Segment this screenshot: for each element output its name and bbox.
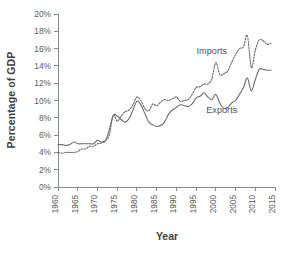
x-axis-tick-label: 2015	[268, 195, 277, 214]
y-axis-tick-label: 10%	[34, 96, 51, 106]
series-label-exports: Exports	[206, 105, 238, 115]
y-axis-tick-label: 16%	[34, 44, 51, 54]
y-axis-tick-label: 6%	[39, 130, 52, 140]
x-axis-tick-label: 1960	[51, 195, 60, 214]
y-axis-tick-label: 8%	[39, 113, 52, 123]
y-axis-tick-label: 0%	[39, 182, 52, 192]
chart-container: Percentage of GDP 0%2%4%6%8%10%12%14%16%…	[0, 0, 285, 254]
y-axis-tick-label: 4%	[39, 147, 52, 157]
x-axis-tick-label: 2010	[248, 195, 257, 214]
y-axis-tick-label: 14%	[34, 61, 51, 71]
x-axis-tick-label: 1980	[130, 195, 139, 214]
x-axis-tick-label: 1970	[90, 195, 99, 214]
series-line-exports	[58, 69, 271, 146]
series-annotation-group: ImportsExports	[197, 46, 238, 115]
data-series-group	[58, 35, 271, 153]
y-axis-tick-label: 12%	[34, 78, 51, 88]
series-label-imports: Imports	[197, 46, 228, 56]
x-axis-tick-label: 2005	[229, 195, 238, 214]
y-axis-tick-group: 0%2%4%6%8%10%12%14%16%18%20%	[34, 9, 58, 192]
x-axis-tick-label: 1995	[189, 195, 198, 214]
x-axis-tick-label: 1965	[71, 195, 80, 214]
y-axis-tick-label: 18%	[34, 26, 51, 36]
x-axis-title: Year	[58, 230, 276, 242]
y-axis-tick-label: 20%	[34, 9, 51, 19]
x-axis-tick-label: 1975	[110, 195, 119, 214]
x-axis-tick-label: 1990	[169, 195, 178, 214]
y-axis-tick-label: 2%	[39, 165, 52, 175]
chart-plot-area: 0%2%4%6%8%10%12%14%16%18%20% 19601965197…	[0, 0, 285, 254]
x-axis-tick-label: 2000	[209, 195, 218, 214]
x-axis-tick-label: 1985	[150, 195, 159, 214]
x-axis-tick-group: 1960196519701975198019851990199520002005…	[51, 187, 277, 213]
